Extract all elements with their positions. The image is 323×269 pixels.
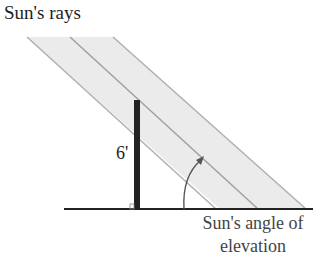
pole bbox=[134, 100, 140, 209]
sun-rays-band bbox=[27, 37, 306, 209]
angle-of-elevation-label: Sun's angle of elevation bbox=[178, 212, 323, 258]
angle-label-line1: Sun's angle of bbox=[178, 212, 323, 235]
angle-label-line2: elevation bbox=[178, 235, 323, 258]
pole-height-label: 6' bbox=[116, 143, 128, 164]
sun-rays-label: Sun's rays bbox=[4, 2, 81, 24]
ray-line-middle bbox=[70, 37, 258, 209]
